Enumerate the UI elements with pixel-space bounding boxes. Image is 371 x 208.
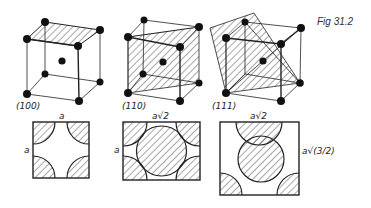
cube-label-110: (110) [122, 101, 146, 111]
figure-label: Fig 31.2 [317, 16, 354, 27]
cube-label-111: (111) [212, 101, 236, 111]
plane-100-hatch [27, 22, 100, 46]
bcc-planes-diagram: Fig 31.2 (100) [0, 0, 371, 208]
cube-110 [124, 17, 203, 106]
cube-111 [210, 13, 305, 105]
section-100-side-dim: a [24, 145, 30, 155]
section-111-side-dim: a√(3/2) [302, 146, 335, 156]
section-110-top-dim: a√2 [152, 111, 169, 121]
section-110-side-dim: a [114, 145, 120, 155]
cube-label-100: (100) [16, 101, 40, 111]
section-111-top-dim: a√2 [250, 111, 267, 121]
section-100-top-dim: a [59, 111, 65, 121]
cube-100 [23, 18, 104, 105]
